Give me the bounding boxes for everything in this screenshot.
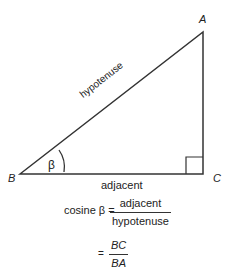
fraction-bc-over-ba: BC BA	[109, 239, 128, 270]
fraction-bar	[110, 212, 171, 213]
fraction-denominator: BA	[109, 257, 128, 270]
fraction-denominator: hypotenuse	[110, 215, 171, 228]
vertex-label-b: B	[8, 173, 15, 184]
fraction-numerator: BC	[109, 239, 128, 252]
triangle-figure	[0, 0, 233, 280]
fraction-numerator: adjacent	[118, 197, 164, 210]
formula-lhs: cosine β =	[64, 205, 115, 216]
formula-equals: =	[98, 249, 104, 259]
right-angle-marker	[186, 157, 203, 174]
fraction-bar	[109, 254, 128, 255]
angle-arc-beta	[59, 150, 64, 172]
fraction-adjacent-over-hypotenuse: adjacent hypotenuse	[110, 197, 171, 228]
right-triangle	[20, 32, 203, 174]
vertex-label-a: A	[199, 14, 206, 25]
adjacent-label: adjacent	[101, 180, 143, 191]
angle-label-beta: β	[48, 159, 55, 171]
vertex-label-c: C	[213, 173, 221, 184]
